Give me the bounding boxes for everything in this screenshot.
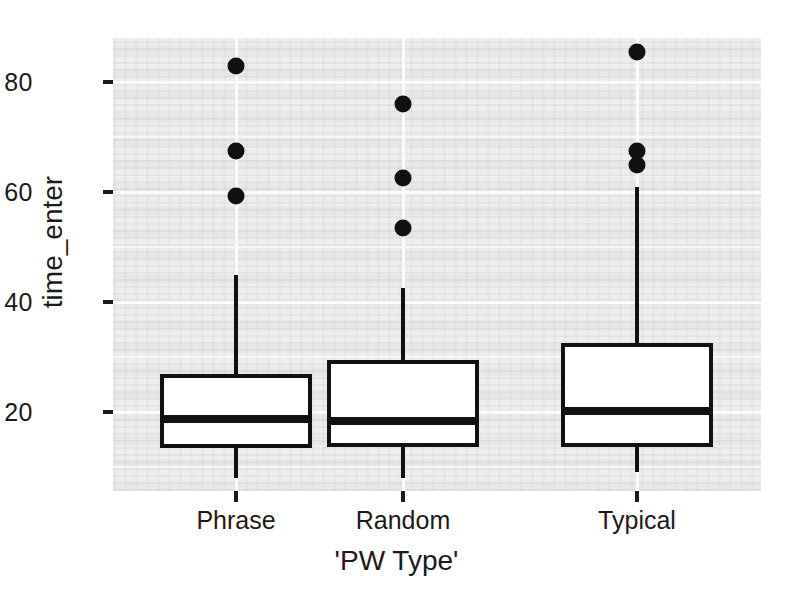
x-tick-label: Random xyxy=(356,506,451,535)
outlier-point xyxy=(228,142,245,159)
y-tick-label: 40 xyxy=(4,288,33,317)
x-tick-mark xyxy=(635,491,639,502)
y-tick-mark xyxy=(103,190,113,194)
whisker-upper xyxy=(401,288,405,360)
plot-panel xyxy=(113,38,761,491)
y-tick-mark xyxy=(103,80,113,84)
chart-figure: 80604020 time_enter PhraseRandomTypical … xyxy=(0,0,793,603)
y-tick-label: 20 xyxy=(4,398,33,427)
outlier-point xyxy=(228,187,245,204)
gridline-minor xyxy=(113,136,761,138)
outlier-point xyxy=(395,170,412,187)
median-line xyxy=(561,407,713,415)
x-tick-label: Typical xyxy=(598,506,676,535)
gridline-minor xyxy=(113,246,761,248)
y-tick-mark xyxy=(103,410,113,414)
outlier-point xyxy=(395,219,412,236)
gridline-minor xyxy=(113,466,761,468)
y-tick-label: 80 xyxy=(4,68,33,97)
x-tick-mark xyxy=(401,491,405,502)
outlier-point xyxy=(629,156,646,173)
whisker-lower xyxy=(401,447,405,478)
y-axis-title: time_enter xyxy=(37,52,69,432)
whisker-upper xyxy=(234,275,238,374)
box-iqr xyxy=(327,360,479,447)
outlier-point xyxy=(395,96,412,113)
box-iqr xyxy=(160,374,312,448)
x-tick-mark xyxy=(234,491,238,502)
y-tick-mark xyxy=(103,300,113,304)
y-tick-label: 60 xyxy=(4,178,33,207)
gridline-major xyxy=(113,191,761,194)
whisker-upper xyxy=(635,187,639,344)
outlier-point xyxy=(228,57,245,74)
gridline-major xyxy=(113,81,761,84)
whisker-lower xyxy=(635,447,639,473)
whisker-lower xyxy=(234,448,238,478)
gridline-major xyxy=(113,301,761,304)
box-iqr xyxy=(561,343,713,446)
x-tick-label: Phrase xyxy=(196,506,275,535)
median-line xyxy=(160,415,312,423)
outlier-point xyxy=(629,43,646,60)
x-axis-title: 'PW Type' xyxy=(0,545,793,577)
median-line xyxy=(327,417,479,425)
